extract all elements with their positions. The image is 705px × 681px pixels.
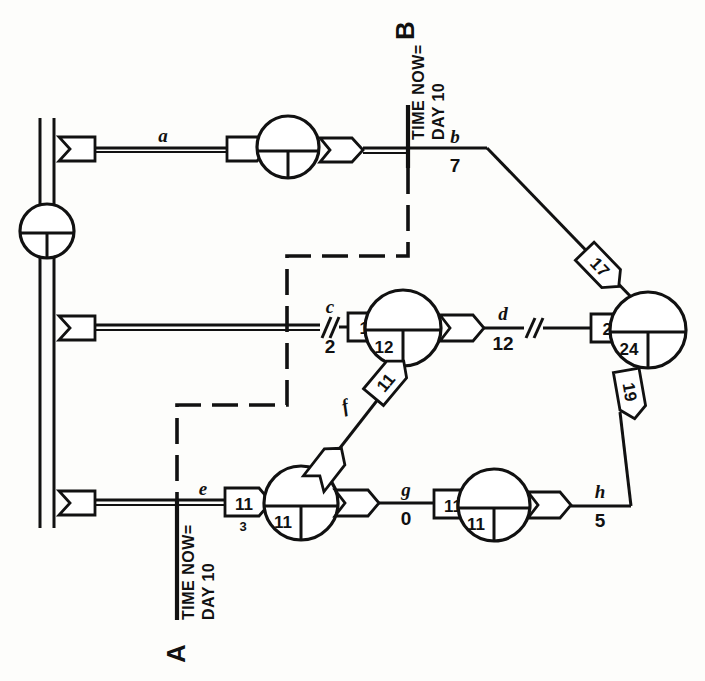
label-activity-h: h: [595, 481, 606, 502]
banner-e-11-label: 11: [235, 495, 253, 514]
tick-marks-d: [526, 318, 543, 338]
label-activity-b: b: [450, 126, 460, 147]
label-value-b: 7: [450, 155, 461, 176]
label-activity-c: c: [326, 296, 335, 317]
node-merge-label: 24: [620, 340, 639, 359]
activity-f: 11 f: [303, 353, 413, 492]
node-merge: 24: [610, 292, 686, 368]
node-g-end: 11: [458, 469, 530, 541]
label-activity-d: d: [498, 303, 508, 324]
row-bottom: 11 3 e 11 11 g 0 11: [59, 412, 631, 541]
time-now-caption-B-line1: TIME NOW=: [410, 44, 427, 140]
label-value-g: 0: [401, 508, 412, 529]
label-value-e: 3: [239, 519, 246, 534]
time-now-marker-A: A TIME NOW= DAY 10: [161, 524, 217, 663]
arrow-head-d-start: [440, 315, 484, 341]
row-middle: 12 12 24 d 12 c 2: [59, 290, 641, 366]
diagram-canvas: a b 7 17 12 12: [0, 0, 705, 681]
time-now-progress-line: [177, 105, 408, 620]
arrow-tail-a: [59, 137, 95, 161]
label-activity-g: g: [400, 479, 411, 500]
node-c-label: 12: [375, 338, 394, 357]
row-top: a b 7: [59, 116, 634, 300]
banner-19: 19: [613, 368, 647, 421]
node-c-end: 12: [365, 290, 441, 366]
time-now-caption-A-line1: TIME NOW=: [180, 524, 197, 620]
network-diagram-svg: a b 7 17 12 12: [0, 0, 705, 681]
time-now-marker-B: B TIME NOW= DAY 10: [390, 21, 447, 140]
node-a-end: [257, 116, 319, 178]
label-activity-f: f: [339, 394, 353, 416]
node-g-label: 11: [467, 515, 485, 534]
label-value-h: 5: [595, 510, 606, 531]
endpoint-label-A: A: [161, 644, 191, 663]
label-activity-a: a: [158, 125, 168, 146]
start-rail: [40, 118, 54, 528]
node-e-label: 11: [274, 513, 292, 532]
arrow-tail-e: [59, 491, 95, 515]
time-now-caption-B-line2: DAY 10: [430, 83, 447, 140]
arrow-head-g-start: [335, 490, 379, 516]
arrow-head-b-start: [320, 138, 363, 162]
label-value-d: 12: [492, 333, 513, 354]
tick-marks-c: [322, 317, 339, 338]
node-origin: [20, 204, 74, 258]
banner-19-label: 19: [619, 381, 641, 403]
arrow-tail-c: [59, 316, 95, 340]
label-activity-e: e: [199, 478, 208, 499]
endpoint-label-B: B: [390, 21, 420, 40]
time-now-caption-A-line2: DAY 10: [200, 563, 217, 620]
arrow-head-h-start: [528, 492, 571, 518]
label-value-c: 2: [325, 336, 336, 357]
